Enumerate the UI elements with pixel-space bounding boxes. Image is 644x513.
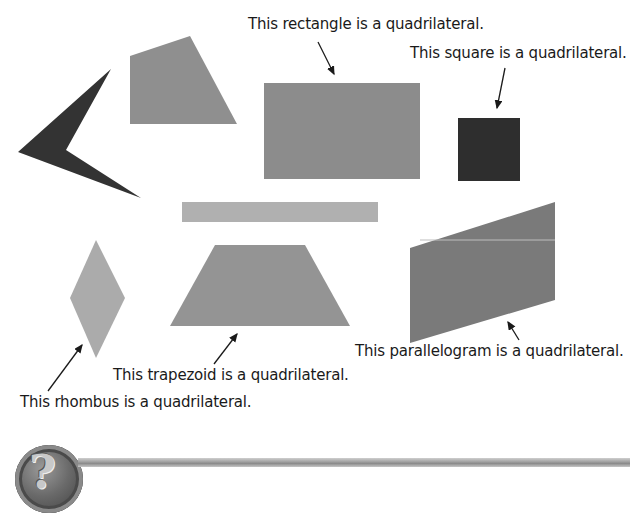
irregular-quadrilateral-shape [130,36,237,124]
question-mark-icon: ? [15,445,83,513]
parallelogram-caption: This parallelogram is a quadrilateral. [355,342,624,360]
rhombus-shape [70,240,125,358]
rectangle-shape [264,83,420,179]
question-glyph: ? [29,445,56,499]
trapezoid-caption: This trapezoid is a quadrilateral. [113,366,349,384]
section-divider-bar [78,458,630,467]
square-caption: This square is a quadrilateral. [410,44,627,62]
rectangle-arrow [318,42,334,74]
rhombus-caption: This rhombus is a quadrilateral. [20,393,251,411]
rhombus-arrow [48,345,82,391]
parallelogram-arrow [508,322,519,340]
parallelogram-shape [410,202,555,343]
concave-quadrilateral-shape [18,69,141,198]
square-arrow [497,68,505,108]
long-rectangle-shape [182,202,378,222]
square-shape [458,118,520,181]
rectangle-caption: This rectangle is a quadrilateral. [248,15,484,33]
trapezoid-arrow [214,334,237,364]
trapezoid-shape [170,245,350,326]
